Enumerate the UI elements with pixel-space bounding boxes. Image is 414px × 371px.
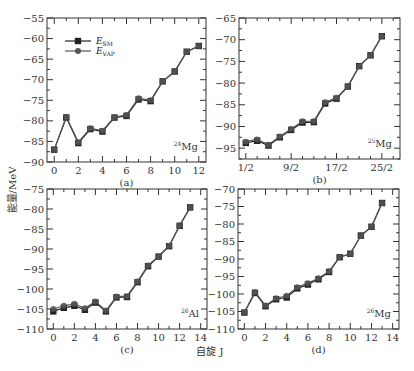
data-point-vap [358,233,364,239]
x-tick-label: 8 [134,332,140,343]
series-line-e-vap [244,203,382,313]
data-point-vap [265,142,271,148]
series-line-e-sm [246,36,382,145]
data-point-vap [311,118,317,124]
figure: 024681012−90−85−80−75−70−65−60−55(a)24Mg… [0,0,414,371]
x-tick-label: 2 [71,332,77,343]
data-point-vap [166,243,172,249]
panel-label: (b) [312,174,326,185]
legend-marker-circle [75,48,81,54]
x-tick-label: 12 [365,332,378,343]
data-point-vap [326,268,332,274]
y-tick-label: −90 [23,244,44,255]
data-point-vap [160,78,166,84]
data-point-vap [82,305,88,311]
data-point-vap [136,95,142,101]
data-point-vap [135,278,141,284]
data-point-vap [156,253,162,259]
x-axis-label: 自旋 J [196,345,223,357]
data-point-vap [379,33,385,39]
data-point-vap [243,139,249,145]
data-point-vap [316,275,322,281]
y-tick-label: −75 [214,201,235,212]
series-line-e-vap [54,46,199,150]
data-point-vap [51,147,57,153]
x-tick-label: 4 [92,332,98,343]
x-tick-label: 17/2 [325,162,347,173]
x-tick-label: 8 [326,332,332,343]
y-tick-label: −70 [23,74,44,85]
data-point-vap [345,84,351,90]
data-point-vap [111,114,117,120]
nucleus-label: 24Mg [174,140,199,152]
data-point-vap [368,52,374,58]
legend-marker-square [75,38,81,44]
y-tick-label: −110 [208,324,235,335]
y-tick-label: −90 [215,121,236,132]
data-point-vap [63,114,69,120]
data-point-vap [379,200,385,206]
panel-b: 1/29/217/225/2−95−90−85−80−75−70−65(b)25… [215,13,400,186]
y-tick-label: −75 [23,95,44,106]
data-point-vap [177,222,183,228]
data-point-vap [145,262,151,268]
data-point-vap [263,303,269,309]
x-tick-label: 2 [262,332,268,343]
data-point-vap [277,133,283,139]
data-point-vap [71,301,77,307]
y-tick-label: −80 [214,219,235,230]
data-point-vap [284,293,290,299]
data-point-vap [347,251,353,257]
y-tick-label: −90 [23,157,44,168]
y-tick-label: −85 [23,224,44,235]
x-tick-label: 25/2 [371,162,393,173]
x-tick-label: 0 [50,332,56,343]
x-tick-label: 10 [152,332,165,343]
x-tick-label: 0 [51,165,57,176]
data-point-vap [334,95,340,101]
y-tick-label: −80 [23,204,44,215]
x-tick-label: 14 [386,332,399,343]
data-point-vap [124,293,130,299]
panel-c: 02468101214−110−105−100−95−90−85−80−75(c… [17,184,208,356]
x-tick-label: 6 [113,332,119,343]
x-tick-label: 6 [123,165,129,176]
data-point-vap [305,280,311,286]
data-point-vap [288,126,294,132]
data-point-vap [172,68,178,74]
data-point-vap [113,294,119,300]
series-line-e-vap [246,36,382,144]
data-point-vap [124,112,130,118]
y-tick-label: −100 [208,289,235,300]
y-tick-label: −65 [215,13,236,24]
data-point-vap [196,43,202,49]
data-point-vap [184,49,190,55]
series-line-e-sm [54,46,199,150]
series-line-e-vap [53,207,190,310]
y-tick-label: −110 [17,324,44,335]
data-point-vap [92,298,98,304]
nucleus-label: 26Al [181,307,199,319]
data-point-vap [50,306,56,312]
data-point-vap [356,63,362,69]
y-tick-label: −55 [23,13,44,24]
y-tick-label: −85 [215,99,236,110]
x-tick-label: 10 [344,332,357,343]
y-tick-label: −75 [23,184,44,195]
x-tick-label: 10 [168,165,181,176]
nucleus-label: 26Mg [367,307,392,319]
x-tick-label: 12 [173,332,186,343]
y-tick-label: −85 [214,236,235,247]
data-point-vap [337,254,343,260]
legend-label: EVAP [95,46,115,57]
data-point-vap [252,289,258,295]
x-tick-label: 8 [147,165,153,176]
data-point-vap [87,125,93,131]
y-tick-label: −95 [23,264,44,275]
data-point-vap [299,118,305,124]
y-tick-label: −60 [23,33,44,44]
y-tick-label: −80 [23,115,44,126]
data-point-vap [241,310,247,316]
data-point-vap [187,204,193,210]
y-tick-label: −95 [214,271,235,282]
